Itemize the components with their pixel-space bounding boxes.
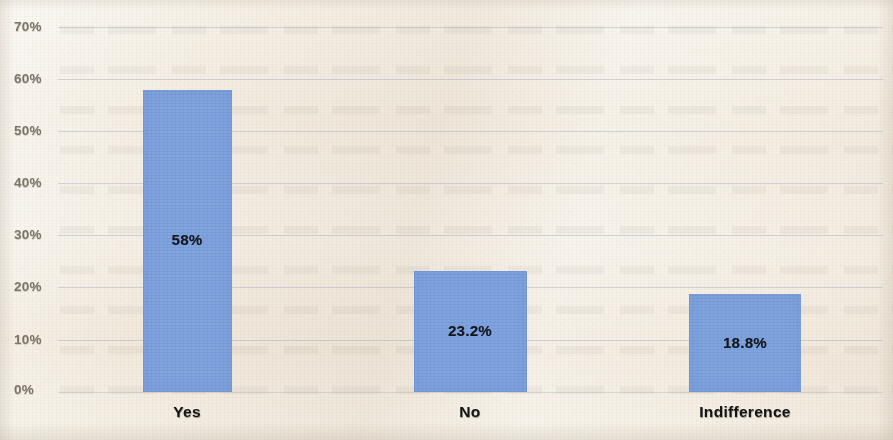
plot-area: 70% 60% 50% 40% 30% 20% 10% 0% 58% 23.2%… bbox=[0, 0, 893, 440]
category-label-no: No bbox=[459, 404, 480, 420]
ytick-label-0: 0% bbox=[14, 383, 58, 397]
ytick-label-60: 60% bbox=[14, 72, 58, 86]
gridline-70 bbox=[58, 27, 883, 28]
ytick-label-50: 50% bbox=[14, 124, 58, 138]
ytick-label-10: 10% bbox=[14, 333, 58, 347]
bar-chart-figure: 70% 60% 50% 40% 30% 20% 10% 0% 58% 23.2%… bbox=[0, 0, 893, 440]
category-label-indifference: Indifference bbox=[699, 404, 790, 420]
axis-baseline bbox=[58, 392, 883, 393]
gridline-60 bbox=[58, 79, 883, 80]
ytick-label-30: 30% bbox=[14, 228, 58, 242]
ytick-label-70: 70% bbox=[14, 20, 58, 34]
category-label-yes: Yes bbox=[173, 404, 201, 420]
bar-value-no: 23.2% bbox=[448, 323, 492, 338]
bar-value-indifference: 18.8% bbox=[723, 335, 767, 350]
ytick-label-40: 40% bbox=[14, 176, 58, 190]
bar-value-yes: 58% bbox=[172, 232, 203, 247]
ytick-label-20: 20% bbox=[14, 280, 58, 294]
